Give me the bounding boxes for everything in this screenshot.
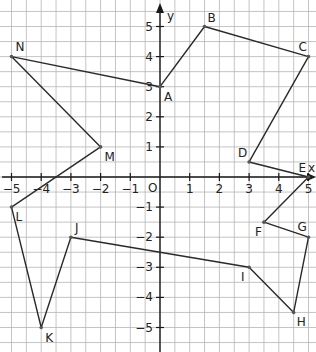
point-d-label: D [238,146,247,160]
point-g-marker [307,235,311,239]
x-tick-label: −3 [62,182,80,196]
point-l-marker [10,205,14,209]
y-axis-label: y [167,9,174,23]
point-b-marker [203,25,207,29]
point-f-marker [262,220,266,224]
point-c-marker [307,55,311,59]
point-l-label: L [16,210,23,224]
point-c-label: C [299,40,307,54]
y-tick-label: −1 [135,200,153,214]
y-tick-label: 1 [145,140,153,154]
x-tick-label: −2 [92,182,110,196]
y-tick-label: −3 [135,260,153,274]
y-tick-label: 3 [145,80,153,94]
point-d-marker [247,160,251,164]
x-tick-label: −5 [3,182,21,196]
x-tick-label: 1 [186,182,194,196]
y-tick-label: 5 [145,20,153,34]
point-m-marker [99,145,103,149]
point-j-label: J [74,221,79,235]
point-e-marker [307,175,311,179]
point-i-marker [247,266,251,270]
y-tick-label: 4 [145,50,153,64]
x-tick-label: 2 [216,182,224,196]
point-a-marker [158,85,162,89]
point-e-label: E [299,161,307,175]
point-j-marker [69,235,73,239]
point-f-label: F [255,225,262,239]
x-tick-label: 4 [275,182,283,196]
y-tick-label: −4 [135,290,153,304]
point-h-marker [292,311,296,315]
point-n-label: N [16,40,25,54]
x-axis-label: x [308,161,315,175]
origin-label: O [148,181,157,195]
point-i-label: I [241,270,245,284]
point-k-marker [39,326,43,330]
point-g-label: G [298,220,307,234]
point-k-label: K [45,331,54,345]
x-tick-label: −4 [32,182,50,196]
point-m-label: M [105,150,115,164]
x-tick-label: −1 [121,182,139,196]
coordinate-plane-diagram: xyO −5−4−3−2−112345−5−4−3−2−112345 ABCDE… [0,0,316,352]
y-tick-label: 2 [145,110,153,124]
point-n-marker [10,55,14,59]
point-a-label: A [164,90,173,104]
x-tick-label: 3 [245,182,253,196]
background [0,0,316,352]
point-b-label: B [208,11,216,25]
y-tick-label: −2 [135,230,153,244]
y-tick-label: −5 [135,321,153,335]
x-tick-label: 5 [305,182,313,196]
point-h-label: H [297,315,306,329]
